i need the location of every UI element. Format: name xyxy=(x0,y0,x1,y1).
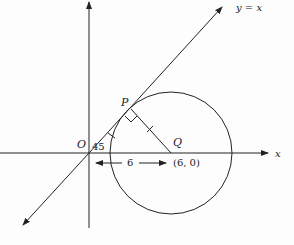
diagram-graphics xyxy=(0,0,294,245)
line-y-equals-x-lower xyxy=(23,153,89,225)
label-point-p: P xyxy=(121,97,128,108)
diagram-canvas: y = x x O 45 P Q (6, 0) 6 xyxy=(0,0,294,245)
label-q-coords: (6, 0) xyxy=(173,158,200,168)
radius-pq xyxy=(131,109,171,153)
label-x-axis: x xyxy=(275,149,281,159)
label-point-q: Q xyxy=(173,137,182,148)
label-distance: 6 xyxy=(127,158,133,168)
label-y-equals-x: y = x xyxy=(236,3,262,13)
right-angle-mark xyxy=(125,116,137,122)
tick-op xyxy=(108,133,115,138)
label-angle: 45 xyxy=(92,142,105,152)
label-origin: O xyxy=(77,139,86,150)
line-y-equals-x xyxy=(89,7,222,153)
